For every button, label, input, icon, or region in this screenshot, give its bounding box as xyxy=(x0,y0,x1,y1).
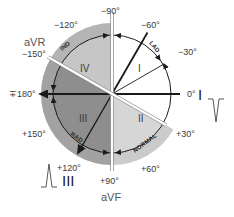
angle-label-pos30: +30° xyxy=(176,129,195,139)
angle-label-neg90: −90° xyxy=(101,6,120,16)
angle-label-pos90: +90° xyxy=(100,176,119,186)
quadrant-label-iv: IV xyxy=(80,63,90,74)
waveform-lead-i-icon xyxy=(208,99,224,122)
lead-label-iii: III xyxy=(62,172,75,189)
angle-label-neg150: −150° xyxy=(22,49,46,59)
angle-label-neg30: −30° xyxy=(178,47,197,57)
angle-label-zero: 0° xyxy=(187,89,196,99)
angle-label-pm180: ∓180° xyxy=(9,89,36,99)
axis-diagram: I II III IV LAD NORMAL RAD IND −90° −60°… xyxy=(0,0,234,217)
quadrant-label-iii: III xyxy=(79,113,87,124)
angle-label-neg120: −120° xyxy=(54,20,78,30)
quadrant-label-ii: II xyxy=(138,113,144,124)
axis-neg60 xyxy=(112,33,148,95)
lead-label-avr: aVR xyxy=(24,36,45,48)
angle-label-pos60: +60° xyxy=(141,164,160,174)
lead-label-avf: aVF xyxy=(101,191,121,203)
arc-label-lad: LAD xyxy=(148,40,161,54)
lead-label-i: I xyxy=(198,86,202,103)
angle-label-neg60: −60° xyxy=(141,20,160,30)
angle-label-pos150: +150° xyxy=(22,129,46,139)
waveform-lead-iii-icon xyxy=(41,164,57,187)
quadrant-label-i: I xyxy=(138,63,141,74)
